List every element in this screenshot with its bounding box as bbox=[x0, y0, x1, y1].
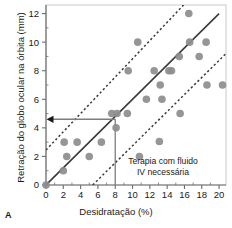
x-tick-label: 14 bbox=[162, 189, 173, 200]
x-axis-title: Desidratação (%) bbox=[0, 206, 232, 217]
data-point bbox=[134, 38, 142, 46]
x-tick-label: 8 bbox=[113, 189, 118, 200]
y-tick-label: 4 bbox=[34, 122, 39, 133]
data-point bbox=[98, 138, 106, 146]
data-point bbox=[60, 167, 68, 175]
data-point bbox=[186, 38, 194, 46]
data-point bbox=[113, 110, 121, 118]
fluid-therapy-annotation: Terapia com fluido IV necessária bbox=[110, 156, 216, 178]
data-point bbox=[60, 138, 68, 146]
x-tick-label: 6 bbox=[95, 189, 100, 200]
y-tick-label: 12 bbox=[28, 8, 39, 19]
figure-panel: 02468101214161820024681012 Desidratação … bbox=[0, 0, 232, 228]
y-tick-label: 10 bbox=[28, 37, 39, 48]
data-point bbox=[156, 138, 164, 146]
y-axis-title: Retração do globo ocular na órbita (mm) bbox=[15, 8, 26, 188]
data-point bbox=[185, 10, 193, 18]
scatter-plot: 02468101214161820024681012 bbox=[0, 0, 232, 228]
data-point bbox=[156, 81, 164, 89]
x-tick-label: 4 bbox=[78, 189, 83, 200]
y-tick-label: 6 bbox=[34, 94, 39, 105]
data-point bbox=[42, 181, 50, 189]
x-tick-label: 20 bbox=[214, 189, 225, 200]
x-tick-label: 2 bbox=[61, 189, 66, 200]
data-point bbox=[158, 95, 166, 103]
x-tick-label: 16 bbox=[179, 189, 190, 200]
data-point bbox=[168, 67, 176, 75]
data-point bbox=[203, 81, 211, 89]
y-tick-label: 2 bbox=[34, 151, 39, 162]
x-tick-label: 18 bbox=[196, 189, 207, 200]
fluid-therapy-line1: Terapia com fluido bbox=[110, 156, 216, 167]
y-tick-label: 8 bbox=[34, 65, 39, 76]
data-point bbox=[143, 95, 151, 103]
panel-label: A bbox=[5, 210, 12, 220]
data-point bbox=[112, 124, 120, 132]
data-point bbox=[63, 153, 71, 161]
fluid-therapy-line2: IV necessária bbox=[110, 167, 216, 178]
data-point bbox=[202, 38, 210, 46]
x-tick-label: 12 bbox=[145, 189, 156, 200]
data-point bbox=[176, 110, 184, 118]
data-point bbox=[124, 110, 132, 118]
data-point bbox=[150, 67, 158, 75]
y-tick-label: 0 bbox=[34, 179, 39, 190]
x-tick-label: 10 bbox=[127, 189, 138, 200]
data-point bbox=[124, 67, 132, 75]
data-point bbox=[219, 81, 227, 89]
data-point bbox=[195, 53, 203, 61]
x-tick-label: 0 bbox=[43, 189, 48, 200]
data-point bbox=[73, 138, 81, 146]
data-point bbox=[85, 153, 93, 161]
data-point bbox=[175, 53, 183, 61]
